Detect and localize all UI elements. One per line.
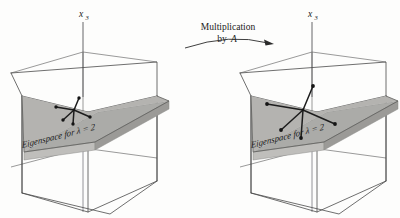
eigenvector-1-tip-after [311, 84, 315, 88]
eigenvector-5-tip-after [333, 122, 337, 126]
eigenvector-1-before [74, 98, 79, 110]
eigenvector-4-before [73, 110, 74, 124]
x3-axis-label-subscript-after: 3 [314, 14, 319, 21]
eigenvector-1-after [303, 86, 313, 110]
x3-axis-label-subscript-before: 3 [85, 14, 90, 21]
eigenvector-origin-before [73, 109, 76, 112]
eigenvector-origin-after [302, 109, 305, 112]
arrow-head-icon [264, 40, 274, 46]
eigenvector-3-tip-before [61, 118, 64, 121]
eigenvector-4-tip-before [71, 122, 74, 125]
x3-axis-label-after: x [307, 9, 313, 19]
panel-after: x 3 [240, 9, 398, 214]
arrow-label-line1: Multiplication [201, 22, 256, 32]
panel-before: x 3 [11, 9, 169, 214]
eigenvector-1-tip-before [77, 96, 80, 99]
eigenvector-2-tip-before [54, 105, 57, 108]
x3-axis-label-before: x [78, 9, 84, 19]
eigenvector-5-tip-before [88, 115, 91, 118]
eigenspace-figure: x 3 [0, 0, 400, 218]
multiplication-arrow-group: Multiplication by A [185, 22, 274, 48]
eigenvector-2-tip-after [265, 102, 269, 106]
